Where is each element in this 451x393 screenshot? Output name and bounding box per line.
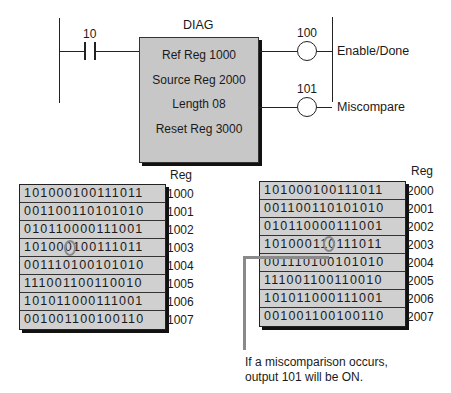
coil-101-label: Miscompare (337, 100, 405, 114)
reg-number: 1004 (167, 257, 194, 275)
diag-function-block: Ref Reg 1000 Source Reg 2000 Length 08 R… (139, 37, 259, 163)
table-row: 111001100110010 (260, 272, 405, 290)
param-ref-reg: Ref Reg 1000 (140, 48, 258, 62)
table-row: 001100110101010 (260, 200, 405, 218)
reg-number: 1002 (167, 221, 194, 239)
reg-number: 1000 (167, 185, 194, 203)
param-source-reg: Source Reg 2000 (140, 73, 258, 87)
block-title: DIAG (183, 18, 214, 32)
reg-number: 1001 (167, 203, 194, 221)
table-row: 010110000111001 (20, 221, 165, 239)
wire-to-coil-101 (259, 107, 297, 108)
right-power-rail (332, 17, 333, 102)
reference-register-table: 101000100111011 001100110101010 01011000… (19, 184, 166, 330)
reg-number: 2004 (407, 254, 434, 272)
rung-wire-contact-to-block (95, 51, 139, 52)
coil-101-address: 101 (297, 82, 317, 96)
rung-wire-left (59, 51, 84, 52)
mismatch-bit-highlight-reference (64, 240, 76, 256)
param-length: Length 08 (140, 97, 258, 111)
table-row: 101000100111011 (260, 182, 405, 200)
table-row: 111001100110010 (20, 275, 165, 293)
table-row: 010110000111001 (260, 218, 405, 236)
table-row: 001001100100110 (20, 311, 165, 329)
left-power-rail (59, 18, 60, 103)
param-reset-reg: Reset Reg 3000 (140, 122, 258, 136)
table-row: 101000100111011 (20, 239, 165, 257)
reg-number: 2001 (407, 200, 434, 218)
source-register-table: 101000100111011 001100110101010 01011000… (259, 181, 406, 327)
reg-number: 2000 (407, 182, 434, 200)
callout-line-vertical (243, 256, 246, 350)
source-table-header: Reg (411, 164, 433, 178)
reg-number: 2002 (407, 218, 434, 236)
reg-number: 1005 (167, 275, 194, 293)
reg-number: 2003 (407, 236, 434, 254)
reg-number: 1007 (167, 311, 194, 329)
wire-coil-101-to-rail (317, 107, 332, 108)
reg-number: 2005 (407, 272, 434, 290)
coil-100-icon (297, 41, 317, 61)
contact-address: 10 (83, 27, 96, 41)
table-row: 001110100101010 (20, 257, 165, 275)
reg-number: 2006 (407, 290, 434, 308)
table-row: 001001100100110 (260, 308, 405, 326)
wire-coil-100-to-rail (317, 51, 332, 52)
coil-101-icon (297, 97, 317, 117)
mismatch-bit-highlight-source (323, 236, 335, 252)
miscompare-caption: If a miscomparison occurs, output 101 wi… (245, 355, 388, 385)
reg-number: 1003 (167, 239, 194, 257)
coil-100-address: 100 (297, 26, 317, 40)
caption-line-2: output 101 will be ON. (245, 370, 388, 385)
wire-to-coil-100 (259, 51, 297, 52)
coil-100-label: Enable/Done (337, 44, 409, 58)
table-row: 101011000111001 (20, 293, 165, 311)
reference-table-header: Reg (170, 168, 192, 182)
reg-number: 2007 (407, 308, 434, 326)
caption-line-1: If a miscomparison occurs, (245, 355, 388, 370)
table-row: 101011000111001 (260, 290, 405, 308)
reg-number: 1006 (167, 293, 194, 311)
table-row: 101000100111011 (20, 185, 165, 203)
callout-line-horizontal (243, 256, 329, 259)
table-row: 001100110101010 (20, 203, 165, 221)
